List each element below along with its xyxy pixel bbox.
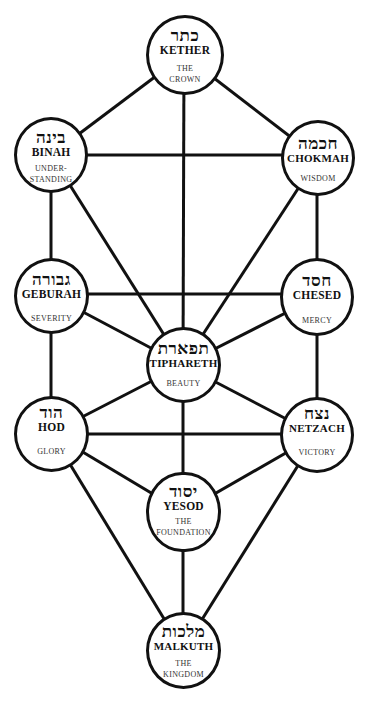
sephira-yesod: יסוד YESOD THE FOUNDATION [146,472,221,552]
hebrew-label: מלכות [162,623,206,640]
sephira-name: GEBURAH [22,288,82,301]
sephira-name: NETZACH [289,422,345,435]
hebrew-label: חסד [302,272,331,289]
tree-of-life-diagram: כתר KETHER THE CROWN בינה BINAH UNDER- S… [0,0,367,701]
sephira-kether: כתר KETHER THE CROWN [146,15,224,95]
meaning-line-1: SEVERITY [31,313,72,324]
meaning-line-1: VICTORY [298,447,335,458]
meaning-line-1: BEAUTY [166,378,200,389]
meaning-line-2: CROWN [169,74,200,85]
sephira-meaning: BEAUTY [166,378,200,389]
path-kether-tiphareth [183,55,184,365]
meaning-line-1: THE [163,658,204,669]
hebrew-label: גבורה [32,271,71,288]
sephira-name: YESOD [163,500,204,513]
hebrew-label: כתר [171,27,200,44]
sephira-malkuth: מלכות MALKUTH THE KINGDOM [146,612,221,689]
sephira-chesed: חסד CHESED MERCY [280,258,354,336]
meaning-line-1: THE [156,516,211,527]
meaning-line-1: MERCY [302,315,332,326]
sephira-name: CHESED [293,289,342,302]
sephira-chokmah: חכמה CHOKMAH WISDOM [281,120,355,196]
hebrew-label: יסוד [169,483,198,500]
faint-caption [100,692,270,696]
sephira-name: TIPHARETH [150,357,218,370]
meaning-line-1: WISDOM [300,173,335,184]
sephira-netzach: נצח NETZACH VICTORY [280,397,354,473]
sephira-name: CHOKMAH [287,152,349,165]
meaning-line-1: GLORY [37,446,66,457]
sephira-geburah: גבורה GEBURAH SEVERITY [14,258,89,334]
hebrew-label: חכמה [298,135,338,152]
sephira-name: HOD [38,421,65,434]
hebrew-label: בינה [36,129,66,146]
sephira-meaning: VICTORY [298,447,335,458]
sephira-meaning: SEVERITY [31,313,72,324]
meaning-line-2: FOUNDATION [156,527,211,538]
sephira-meaning: THE CROWN [169,63,200,85]
meaning-line-2: STANDING [30,174,73,185]
sephira-meaning: MERCY [302,315,332,326]
sephira-meaning: THE FOUNDATION [156,516,211,538]
sephira-meaning: UNDER- STANDING [30,163,73,185]
meaning-line-2: KINGDOM [163,669,204,680]
meaning-line-1: UNDER- [30,163,73,174]
sephira-name: BINAH [32,146,71,159]
sephira-name: MALKUTH [154,640,213,653]
hebrew-label: הוד [40,404,64,421]
hebrew-label: תפארת [158,340,210,357]
sephira-meaning: GLORY [37,446,66,457]
sephira-meaning: THE KINGDOM [163,658,204,680]
sephira-tiphareth: תפארת TIPHARETH BEAUTY [146,327,221,403]
meaning-line-1: THE [169,63,200,74]
sephira-hod: הוד HOD GLORY [14,396,89,472]
sephira-meaning: WISDOM [300,173,335,184]
sephira-binah: בינה BINAH UNDER- STANDING [14,117,88,193]
sephira-name: KETHER [160,44,210,57]
hebrew-label: נצח [304,405,330,422]
